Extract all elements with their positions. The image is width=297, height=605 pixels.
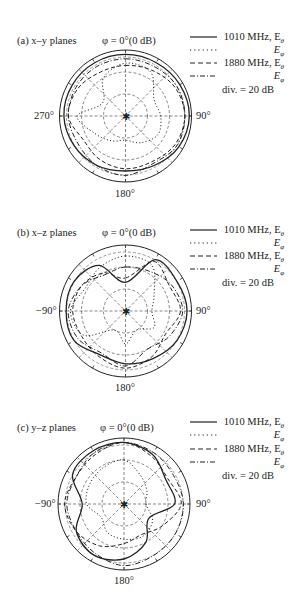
legend-item-1880-etheta: 1880 MHz, Eθ: [190, 443, 290, 455]
legend-item-1880-ephi: Eφ: [190, 456, 290, 468]
legend-label: 1010 MHz, E: [224, 224, 281, 235]
dotted-line-swatch: [190, 48, 218, 52]
dashdot-line-swatch: [190, 460, 218, 464]
legend-item-1880-etheta: 1880 MHz, Eθ: [190, 57, 290, 69]
legend-item-1010-etheta: 1010 MHz, Eθ: [190, 416, 290, 428]
left-angle-label: −90°: [36, 306, 57, 317]
panel-label: (b) x–z planes: [17, 228, 76, 239]
legend-item-1010-ephi: Eφ: [190, 44, 290, 56]
polar-plot-a: ✱: [0, 0, 297, 200]
center-marker-icon: ✱: [122, 111, 130, 122]
legend-item-1880-etheta: 1880 MHz, Eθ: [190, 250, 290, 262]
pattern-curve: [77, 63, 161, 143]
top-angle-label: φ = 0°(0 dB): [102, 228, 156, 239]
pattern-curve: [65, 442, 182, 546]
dotted-line-swatch: [190, 433, 218, 437]
division-note: div. = 20 dB: [222, 84, 274, 95]
panel-b-xz-plane: ✱ (b) x–z planes φ = 0°(0 dB) −90° 90° 1…: [0, 195, 297, 390]
dashed-line-swatch: [190, 447, 218, 451]
left-angle-label: 270°: [34, 111, 54, 122]
division-note: div. = 20 dB: [222, 277, 274, 288]
legend-label: 1010 MHz, E: [224, 416, 281, 427]
legend-item-1010-etheta: 1010 MHz, Eθ: [190, 224, 290, 236]
bottom-angle-label: 180°: [114, 576, 134, 587]
dashed-line-swatch: [190, 61, 218, 65]
dashdot-line-swatch: [190, 267, 218, 271]
legend-item-1880-ephi: Eφ: [190, 70, 290, 82]
legend-label: 1880 MHz, E: [224, 57, 281, 68]
division-note: div. = 20 dB: [222, 470, 274, 481]
dashdot-line-swatch: [190, 74, 218, 78]
panel-a-xy-plane: ✱ (a) x–y planes φ = 0°(0 dB) 270° 90° 1…: [0, 0, 297, 195]
legend-label: 1880 MHz, E: [224, 443, 281, 454]
panel-label: (c) y–z planes: [17, 423, 76, 434]
legend-item-1880-ephi: Eφ: [190, 263, 290, 275]
legend-item-1010-etheta: 1010 MHz, Eθ: [190, 31, 290, 43]
panel-label: (a) x–y planes: [17, 36, 76, 47]
solid-line-swatch: [190, 420, 218, 424]
right-angle-label: 90°: [196, 306, 211, 317]
center-marker-icon: ✱: [120, 499, 128, 510]
center-marker-icon: ✱: [122, 306, 130, 317]
solid-line-swatch: [190, 228, 218, 232]
right-angle-label: 90°: [196, 499, 211, 510]
legend-item-1010-ephi: Eφ: [190, 237, 290, 249]
top-angle-label: φ = 0°(0 dB): [102, 36, 156, 47]
panel-c-yz-plane: ✱ (c) y–z planes φ = 0°(0 dB) −90° 90° 1…: [0, 388, 297, 583]
solid-line-swatch: [190, 35, 218, 39]
legend-item-1010-ephi: Eφ: [190, 429, 290, 441]
legend-label: 1880 MHz, E: [224, 250, 281, 261]
dashed-line-swatch: [190, 254, 218, 258]
legend-label: 1010 MHz, E: [224, 31, 281, 42]
dotted-line-swatch: [190, 241, 218, 245]
left-angle-label: −90°: [35, 499, 56, 510]
top-angle-label: φ = 0°(0 dB): [100, 423, 154, 434]
right-angle-label: 90°: [196, 111, 211, 122]
